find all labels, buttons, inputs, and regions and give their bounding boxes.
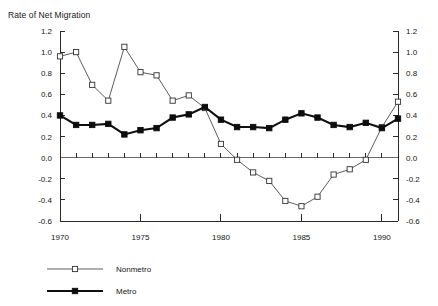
data-point-metro-1984 xyxy=(283,117,288,122)
data-point-metro-1989 xyxy=(363,120,368,125)
y-axis-left-tick-label: 0.2 xyxy=(41,133,53,142)
data-point-nonmetro-1988 xyxy=(347,167,352,172)
data-point-nonmetro-1970 xyxy=(57,54,62,59)
x-axis-tick-label: 1970 xyxy=(51,233,69,242)
data-point-metro-1987 xyxy=(331,122,336,127)
legend-label-metro: Metro xyxy=(116,287,137,296)
y-axis-right-tick-label: -0.2 xyxy=(406,175,420,184)
y-axis-right-tick-label: 1.0 xyxy=(406,48,418,57)
chart-figure: Rate of Net Migration -0.6-0.4-0.20.00.2… xyxy=(0,0,438,306)
data-point-metro-1990 xyxy=(379,125,384,130)
data-point-nonmetro-1972 xyxy=(90,82,95,87)
data-point-nonmetro-1976 xyxy=(154,73,159,78)
y-axis-left-tick-label: 1.2 xyxy=(41,27,53,36)
data-point-nonmetro-1978 xyxy=(186,93,191,98)
migration-line-chart: -0.6-0.4-0.20.00.20.40.60.81.01.2 -0.6-0… xyxy=(0,0,438,306)
data-point-metro-1972 xyxy=(89,122,94,127)
y-axis-left-tick-label: -0.6 xyxy=(38,217,52,226)
data-point-nonmetro-1974 xyxy=(122,44,127,49)
data-point-nonmetro-1971 xyxy=(74,50,79,55)
data-point-nonmetro-1977 xyxy=(170,98,175,103)
y-axis-right-tick-label: 0.8 xyxy=(406,69,418,78)
data-point-nonmetro-1986 xyxy=(315,194,320,199)
data-point-metro-1971 xyxy=(73,122,78,127)
legend-marker-nonmetro xyxy=(72,266,77,271)
data-point-metro-1979 xyxy=(202,104,207,109)
data-point-metro-1970 xyxy=(57,113,62,118)
data-point-nonmetro-1973 xyxy=(106,98,111,103)
data-point-nonmetro-1975 xyxy=(138,70,143,75)
y-axis-right-tick-label: 0.2 xyxy=(406,133,418,142)
data-point-nonmetro-1982 xyxy=(251,170,256,175)
y-axis-left-tick-label: -0.2 xyxy=(38,175,52,184)
data-point-metro-1976 xyxy=(154,125,159,130)
data-point-metro-1981 xyxy=(234,124,239,129)
y-axis-right-tick-label: 0.6 xyxy=(406,90,418,99)
chart-legend: NonmetroMetro xyxy=(47,265,152,296)
x-axis: 19701975198019851990 xyxy=(51,153,398,242)
data-point-nonmetro-1980 xyxy=(218,141,223,146)
x-axis-tick-label: 1990 xyxy=(373,233,391,242)
data-point-metro-1974 xyxy=(122,132,127,137)
data-point-nonmetro-1987 xyxy=(331,172,336,177)
data-point-nonmetro-1991 xyxy=(395,99,400,104)
data-point-nonmetro-1981 xyxy=(234,157,239,162)
data-point-nonmetro-1989 xyxy=(363,157,368,162)
legend-marker-metro xyxy=(72,288,77,293)
y-axis-left-tick-label: 1.0 xyxy=(41,48,53,57)
data-point-metro-1983 xyxy=(267,125,272,130)
data-point-metro-1973 xyxy=(106,121,111,126)
data-point-nonmetro-1983 xyxy=(267,178,272,183)
y-axis-right-tick-label: -0.6 xyxy=(406,217,420,226)
data-point-nonmetro-1985 xyxy=(299,204,304,209)
data-series-group xyxy=(57,44,400,209)
x-axis-tick-label: 1975 xyxy=(132,233,150,242)
y-axis-left-tick-label: 0.6 xyxy=(41,90,53,99)
series-line-metro xyxy=(60,107,398,134)
data-point-metro-1988 xyxy=(347,124,352,129)
data-point-metro-1991 xyxy=(395,116,400,121)
data-point-metro-1975 xyxy=(138,128,143,133)
y-axis-left-tick-label: 0.4 xyxy=(41,111,53,120)
data-point-metro-1982 xyxy=(250,124,255,129)
data-point-metro-1985 xyxy=(299,111,304,116)
data-point-metro-1977 xyxy=(170,115,175,120)
data-point-metro-1978 xyxy=(186,112,191,117)
y-axis-right-tick-label: 1.2 xyxy=(406,27,418,36)
legend-label-nonmetro: Nonmetro xyxy=(116,265,152,274)
data-point-nonmetro-1984 xyxy=(283,198,288,203)
y-axis-right-tick-label: -0.4 xyxy=(406,196,420,205)
y-axis-right: -0.6-0.4-0.20.00.20.40.60.81.01.2 xyxy=(393,27,420,226)
x-axis-tick-label: 1980 xyxy=(212,233,230,242)
y-axis-right-tick-label: 0.4 xyxy=(406,111,418,120)
y-axis-right-tick-label: 0.0 xyxy=(406,154,418,163)
x-axis-tick-label: 1985 xyxy=(293,233,311,242)
data-point-metro-1986 xyxy=(315,115,320,120)
y-axis-left-tick-label: 0.0 xyxy=(41,154,53,163)
data-point-metro-1980 xyxy=(218,117,223,122)
y-axis-left-tick-label: 0.8 xyxy=(41,69,53,78)
y-axis-left-tick-label: -0.4 xyxy=(38,196,52,205)
